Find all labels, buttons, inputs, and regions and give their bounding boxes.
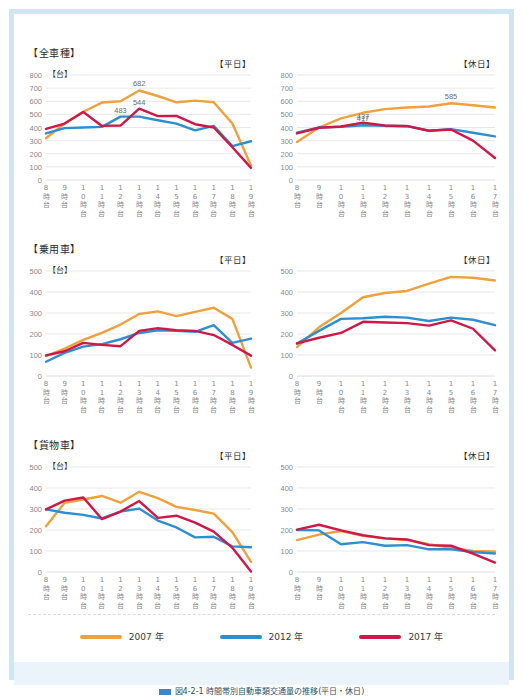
caption-text: 図4-2-1 時間帯別自動車類交通量の推移(平日・休日) bbox=[175, 687, 365, 696]
legend-color-swatch bbox=[359, 635, 401, 639]
x-axis-tick-label: 16時台 bbox=[186, 184, 204, 218]
x-axis-tick-label: 19時台 bbox=[242, 184, 260, 218]
caption-band bbox=[14, 662, 509, 685]
x-axis-tick-label: 13時台 bbox=[130, 380, 148, 414]
x-axis-tick-label: 10時台 bbox=[332, 184, 350, 218]
line-chart: 【平日】【台】010020030040050060070080068254448… bbox=[16, 59, 255, 222]
line-chart: 【平日】【台】01002003004005008時台9時台10時台11時台12時… bbox=[16, 451, 255, 614]
legend-item[interactable]: 2012 年 bbox=[220, 630, 304, 643]
x-axis-tick-label: 9時台 bbox=[56, 184, 74, 210]
x-axis-tick-label: 17時台 bbox=[486, 576, 504, 610]
legend-color-swatch bbox=[220, 635, 262, 639]
chart-plot-area bbox=[16, 59, 257, 186]
x-axis-tick-label: 17時台 bbox=[205, 380, 223, 414]
data-point-label: 483 bbox=[114, 106, 127, 115]
x-axis-tick-label: 16時台 bbox=[464, 380, 482, 414]
x-axis-tick-label: 12時台 bbox=[112, 380, 130, 414]
chart-series-line bbox=[46, 117, 251, 147]
x-axis-tick-label: 11時台 bbox=[93, 380, 111, 414]
legend-label: 2007 年 bbox=[129, 630, 164, 643]
caption-marker-icon bbox=[159, 689, 171, 695]
x-axis-tick-label: 13時台 bbox=[130, 576, 148, 610]
x-axis-tick-label: 12時台 bbox=[376, 576, 394, 610]
data-point-label: 682 bbox=[133, 79, 146, 88]
x-axis-tick-label: 10時台 bbox=[332, 576, 350, 610]
x-axis-tick-label: 9時台 bbox=[56, 380, 74, 406]
x-axis-tick-label: 16時台 bbox=[464, 576, 482, 610]
x-axis-tick-label: 10時台 bbox=[74, 380, 92, 414]
x-axis-tick-label: 8時台 bbox=[288, 380, 306, 406]
x-axis-tick-label: 11時台 bbox=[354, 380, 372, 414]
x-axis-tick-label: 11時台 bbox=[354, 576, 372, 610]
chart-series-line bbox=[297, 317, 495, 344]
x-axis-tick-label: 17時台 bbox=[486, 184, 504, 218]
chart-series-line bbox=[297, 320, 495, 350]
x-axis-tick-label: 15時台 bbox=[442, 380, 460, 414]
x-axis-tick-label: 14時台 bbox=[149, 184, 167, 218]
chart-series-line bbox=[46, 492, 251, 562]
x-axis-tick-label: 13時台 bbox=[398, 380, 416, 414]
chart-legend: 2007 年2012 年2017 年 bbox=[14, 630, 509, 643]
legend-color-swatch bbox=[80, 635, 122, 639]
x-axis-tick-label: 14時台 bbox=[420, 184, 438, 218]
chart-series-line bbox=[297, 525, 495, 563]
x-axis-tick-label: 17時台 bbox=[205, 576, 223, 610]
x-axis-tick-label: 15時台 bbox=[167, 576, 185, 610]
x-axis-tick-label: 16時台 bbox=[464, 184, 482, 218]
x-axis-tick-label: 9時台 bbox=[310, 576, 328, 602]
x-axis-tick-label: 10時台 bbox=[74, 184, 92, 218]
legend-item[interactable]: 2017 年 bbox=[359, 630, 443, 643]
chart-plot-area bbox=[267, 59, 501, 186]
x-axis-tick-label: 14時台 bbox=[149, 576, 167, 610]
legend-item[interactable]: 2007 年 bbox=[80, 630, 164, 643]
x-axis-tick-label: 8時台 bbox=[37, 380, 55, 406]
x-axis-tick-label: 10時台 bbox=[332, 380, 350, 414]
x-axis-tick-label: 16時台 bbox=[186, 576, 204, 610]
line-chart: 【休日】01002003004005008時台9時台10時台11時台12時台13… bbox=[267, 451, 499, 614]
chart-section: 【全車種】【平日】【台】0100200300400500600700800682… bbox=[14, 36, 509, 232]
chart-plot-area bbox=[16, 451, 257, 578]
chart-plot-area bbox=[267, 451, 501, 578]
x-axis-tick-label: 13時台 bbox=[398, 576, 416, 610]
x-axis-tick-label: 15時台 bbox=[167, 380, 185, 414]
x-axis-tick-label: 8時台 bbox=[288, 576, 306, 602]
chart-section: 【貨物車】【平日】【台】01002003004005008時台9時台10時台11… bbox=[14, 428, 509, 624]
chart-plot-area bbox=[267, 255, 501, 382]
chart-plot-area bbox=[16, 255, 257, 382]
x-axis-tick-label: 8時台 bbox=[37, 576, 55, 602]
legend-divider bbox=[28, 614, 495, 615]
line-chart: 【休日】01002003004005008時台9時台10時台11時台12時台13… bbox=[267, 255, 499, 418]
x-axis-tick-label: 17時台 bbox=[205, 184, 223, 218]
x-axis-tick-label: 11時台 bbox=[93, 184, 111, 218]
section-title: 【全車種】 bbox=[28, 45, 81, 60]
data-point-label: 417 bbox=[357, 114, 370, 123]
x-axis-tick-label: 14時台 bbox=[149, 380, 167, 414]
line-chart: 【平日】【台】01002003004005008時台9時台10時台11時台12時… bbox=[16, 255, 255, 418]
x-axis-tick-label: 13時台 bbox=[130, 184, 148, 218]
x-axis-tick-label: 19時台 bbox=[242, 380, 260, 414]
x-axis-tick-label: 11時台 bbox=[93, 576, 111, 610]
x-axis-tick-label: 15時台 bbox=[442, 184, 460, 218]
section-title: 【貨物車】 bbox=[28, 437, 81, 452]
x-axis-tick-label: 13時台 bbox=[398, 184, 416, 218]
x-axis-tick-label: 18時台 bbox=[223, 380, 241, 414]
line-chart: 【休日】01002003004005006007008005854374178時… bbox=[267, 59, 499, 222]
x-axis-tick-label: 9時台 bbox=[310, 380, 328, 406]
x-axis-tick-label: 10時台 bbox=[74, 576, 92, 610]
chart-section: 【乗用車】【平日】【台】01002003004005008時台9時台10時台11… bbox=[14, 232, 509, 428]
report-content: 【全車種】【平日】【台】0100200300400500600700800682… bbox=[14, 14, 509, 675]
chart-series-line bbox=[46, 497, 251, 571]
report-page-frame: 【全車種】【平日】【台】0100200300400500600700800682… bbox=[9, 9, 514, 680]
x-axis-tick-label: 17時台 bbox=[486, 380, 504, 414]
legend-label: 2012 年 bbox=[269, 630, 304, 643]
figure-caption: 図4-2-1 時間帯別自動車類交通量の推移(平日・休日) bbox=[14, 685, 509, 696]
x-axis-tick-label: 9時台 bbox=[310, 184, 328, 210]
x-axis-tick-label: 14時台 bbox=[420, 380, 438, 414]
data-point-label: 544 bbox=[133, 98, 146, 107]
x-axis-tick-label: 18時台 bbox=[223, 576, 241, 610]
x-axis-tick-label: 8時台 bbox=[288, 184, 306, 210]
x-axis-tick-label: 14時台 bbox=[420, 576, 438, 610]
x-axis-tick-label: 12時台 bbox=[112, 184, 130, 218]
x-axis-tick-label: 12時台 bbox=[376, 380, 394, 414]
x-axis-tick-label: 12時台 bbox=[376, 184, 394, 218]
